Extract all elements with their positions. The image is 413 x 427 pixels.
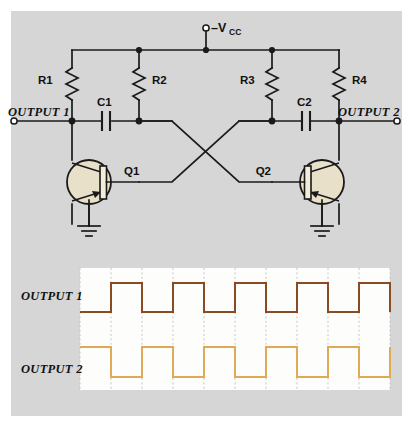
r1-zigzag: [66, 68, 78, 100]
r2-label: R2: [152, 74, 167, 86]
output1-label: OUTPUT 1: [8, 105, 70, 119]
timing-label-output2: OUTPUT 2: [21, 362, 83, 376]
r3-zigzag: [266, 68, 278, 100]
capacitor-c1[interactable]: C1: [97, 96, 112, 131]
supply-node: –V CC: [203, 21, 241, 50]
transistor-q1[interactable]: Q1: [67, 121, 140, 224]
r2-zigzag: [133, 68, 145, 100]
vcc-subscript: CC: [229, 27, 241, 37]
r4-label: R4: [352, 74, 367, 86]
schematic-canvas: –V CC R1 R2: [0, 0, 413, 427]
ground-q1: [78, 226, 100, 236]
c2-label: C2: [297, 96, 312, 108]
r3-label: R3: [240, 74, 255, 86]
q2-base-bar: [305, 166, 312, 199]
schematic-group: –V CC R1 R2: [8, 21, 400, 236]
resistor-r3[interactable]: R3: [240, 50, 278, 121]
transistor-q2[interactable]: Q2: [256, 121, 344, 224]
timing-label-output1: OUTPUT 1: [21, 289, 83, 303]
r4-zigzag: [333, 68, 345, 100]
q2-label: Q2: [256, 165, 271, 177]
q1-base-bar: [100, 166, 107, 199]
ground-q2: [311, 226, 333, 236]
junction-rail-vcc: [203, 47, 209, 53]
r1-label: R1: [38, 74, 53, 86]
output2-label: OUTPUT 2: [338, 105, 400, 119]
c1-label: C1: [97, 96, 112, 108]
figure-root: –V CC R1 R2: [0, 0, 413, 427]
capacitor-c2[interactable]: C2: [297, 96, 312, 131]
crosscouple-r3-to-q1-base: [139, 121, 272, 182]
timing-diagram-group: OUTPUT 1 OUTPUT 2: [21, 268, 390, 390]
resistor-r2[interactable]: R2: [133, 50, 167, 121]
q1-label: Q1: [124, 165, 140, 177]
vcc-label: –V: [211, 21, 227, 35]
vcc-terminal-circle[interactable]: [203, 25, 209, 31]
